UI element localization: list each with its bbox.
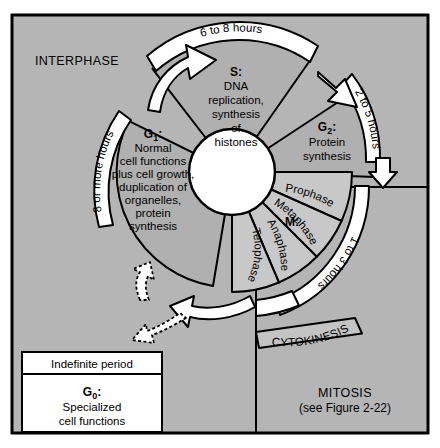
g1-line-4: organelles, (125, 194, 181, 206)
s-line-0: DNA (224, 80, 249, 92)
s-title: S: (230, 65, 242, 79)
g0-title: G0: (83, 385, 101, 401)
g1-line-6: synthesis (129, 220, 177, 232)
s-line-1: replication, (208, 94, 264, 106)
g1-line-5: protein (135, 207, 170, 219)
s-colon: : (238, 65, 242, 79)
g1-name: G (144, 127, 153, 141)
s-line-3: of (231, 122, 241, 134)
g1-line-1: cell functions (120, 155, 187, 167)
s-name: S (230, 65, 238, 79)
g0-colon: : (97, 385, 101, 399)
interphase-label: INTERPHASE (35, 54, 119, 68)
g1-line-0: Normal (134, 142, 171, 154)
g0-line-1: cell functions (59, 415, 126, 427)
g1-line-3: duplication of (119, 181, 188, 193)
figure-container: INTERPHASE MITOSIS (see Figure 2-22) G1:… (0, 0, 440, 448)
mitosis-reference: (see Figure 2-22) (299, 401, 391, 415)
g1-title: G1: (144, 127, 162, 143)
cell-cycle-diagram: INTERPHASE MITOSIS (see Figure 2-22) G1:… (0, 0, 440, 448)
s-line-4: histones (215, 136, 258, 148)
g2-colon: : (332, 120, 336, 134)
g0-line-0: Specialized (63, 401, 122, 413)
g0-name: G (83, 385, 92, 399)
g1-colon: : (158, 127, 162, 141)
g2-title: G2: (318, 120, 336, 136)
g1-line-2: plus cell growth, (112, 168, 194, 180)
mitosis-label: MITOSIS (318, 386, 372, 400)
g2-line-0: Protein (309, 136, 345, 148)
g2-line-1: synthesis (303, 150, 351, 162)
s-line-2: synthesis (212, 108, 260, 120)
g2-name: G (318, 120, 327, 134)
g0-header: Indefinite period (51, 358, 133, 370)
